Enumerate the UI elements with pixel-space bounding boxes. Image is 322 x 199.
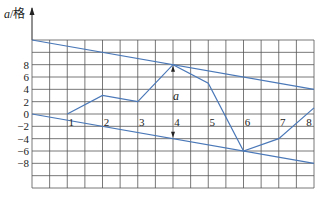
y-tick-label: 2 (24, 96, 30, 108)
y-axis-arrow-icon (30, 7, 35, 15)
x-tick-label: 1 (69, 116, 75, 128)
x-tick-label: 4 (174, 116, 180, 128)
x-tick-label: 8 (306, 116, 312, 128)
grid (32, 40, 314, 188)
annotation-label: a (173, 89, 179, 103)
y-tick-label: 8 (24, 59, 30, 71)
y-tick-label: −4 (17, 133, 29, 145)
x-tick-label: 3 (139, 116, 145, 128)
y-tick-label: 4 (24, 83, 30, 95)
chart: 1234567886420−2−4−6−8 a (0, 0, 322, 199)
y-tick-label: 6 (24, 71, 30, 83)
y-tick-label: 0 (24, 108, 30, 120)
x-tick-label: 6 (245, 116, 251, 128)
x-tick-label: 2 (104, 116, 110, 128)
y-tick-label: −6 (17, 145, 29, 157)
arrow-down-icon (171, 132, 175, 138)
x-tick-label: 5 (210, 116, 216, 128)
y-tick-label: −2 (17, 120, 29, 132)
x-tick-label: 7 (280, 116, 286, 128)
y-tick-label: −8 (17, 157, 29, 169)
axes (30, 7, 35, 40)
